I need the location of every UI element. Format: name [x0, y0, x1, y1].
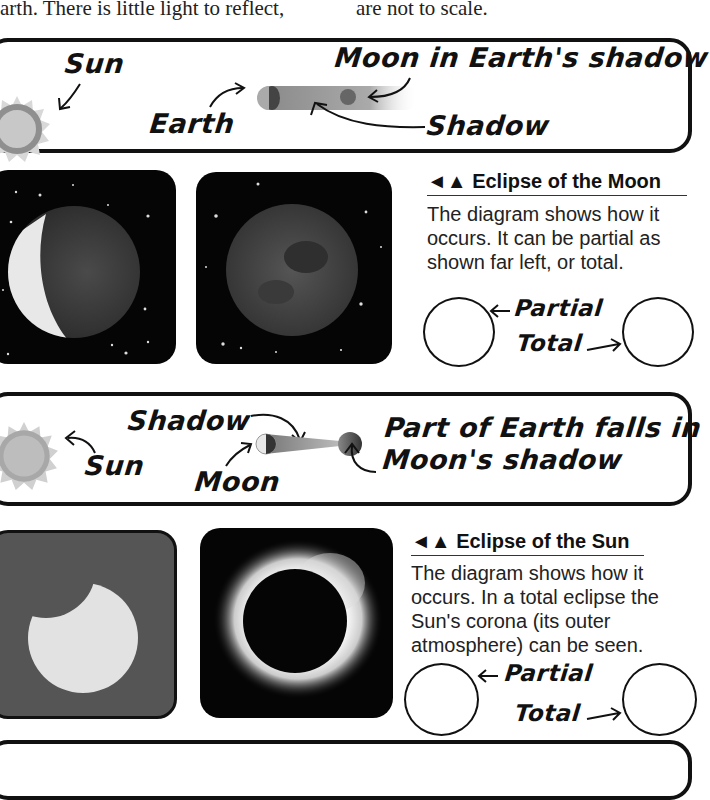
sun-icon [0, 94, 52, 164]
total-lunar-eclipse-photo [196, 172, 392, 364]
arrow-to-shadow-icon [305, 100, 430, 135]
total-solar-eclipse-photo [200, 528, 393, 718]
caption-marker-icon: ◄▲ [427, 170, 467, 192]
solar-total-label: Total [514, 700, 582, 726]
earth-in-shadow-label-line1: Part of Earth falls in [383, 412, 703, 443]
solar-moon-label: Moon [193, 466, 281, 497]
partial-lunar-eclipse-photo [0, 170, 176, 364]
caption-marker-icon: ◄▲ [411, 530, 451, 552]
partial-sun-icon [0, 533, 177, 719]
lunar-caption-title: Eclipse of the Moon [472, 170, 661, 192]
solar-shadow-label: Shadow [126, 405, 252, 436]
total-eclipse-ring [622, 663, 697, 736]
lunar-caption-heading: ◄▲ Eclipse of the Moon [427, 170, 687, 196]
solar-sun-label: Sun [83, 450, 146, 481]
sun-label: Sun [63, 48, 126, 79]
intro-text-right: are not to scale. [356, 0, 488, 21]
earth-label: Earth [148, 108, 236, 139]
arrow-to-total-ring-icon [585, 707, 625, 723]
solar-caption-title: Eclipse of the Sun [456, 530, 629, 552]
intro-text-left: arth. There is little light to reflect, [0, 0, 284, 21]
earth-icon [255, 83, 275, 113]
shadow-label: Shadow [425, 110, 551, 141]
arrow-to-earth-icon [330, 440, 380, 475]
lunar-total-label: Total [516, 330, 584, 356]
earth-in-shadow-label-line2: Moon's shadow [381, 444, 624, 475]
moon-in-shadow-label: Moon in Earth's shadow [333, 42, 710, 73]
partial-solar-eclipse-photo [0, 530, 177, 719]
partial-eclipse-ring [423, 297, 495, 367]
starfield-icon [196, 172, 392, 364]
starfield-icon [0, 170, 176, 364]
arrow-to-earth-icon [205, 82, 250, 112]
next-diagram-box [0, 740, 692, 800]
solar-caption-heading: ◄▲ Eclipse of the Sun [411, 530, 644, 556]
arrow-to-partial-ring-icon [476, 669, 501, 683]
solar-caption-body: The diagram shows how it occurs. In a to… [411, 561, 701, 657]
solar-partial-label: Partial [504, 660, 595, 686]
arrow-to-partial-ring-icon [488, 304, 513, 318]
lunar-partial-label: Partial [514, 295, 605, 321]
arrow-to-sun-icon [55, 82, 85, 112]
lunar-caption-body: The diagram shows how it occurs. It can … [427, 202, 702, 274]
corona-icon [200, 528, 393, 718]
arrow-to-total-ring-icon [585, 338, 625, 354]
partial-eclipse-ring [404, 663, 479, 736]
total-eclipse-ring [622, 297, 694, 367]
sun-icon [0, 420, 60, 492]
